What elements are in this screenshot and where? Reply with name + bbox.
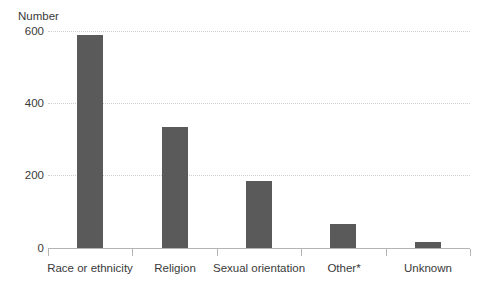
y-tick-label-600: 600 xyxy=(4,25,44,37)
x-axis-tick-5 xyxy=(470,249,471,256)
clipped-chart-title xyxy=(0,0,494,6)
bar-sexual-orientation[interactable] xyxy=(246,181,272,248)
bar-race-or-ethnicity[interactable] xyxy=(77,35,103,248)
x-tick-label-other: Other* xyxy=(327,261,360,275)
x-axis-tick-2 xyxy=(217,249,218,256)
y-tick-label-0: 0 xyxy=(4,242,44,254)
bars-layer xyxy=(48,20,470,248)
x-tick-label-sexual-orientation: Sexual orientation xyxy=(213,261,305,275)
y-tick-label-400: 400 xyxy=(4,97,44,109)
x-axis-tick-4 xyxy=(386,249,387,256)
x-axis-tick-3 xyxy=(301,249,302,256)
x-axis-tick-1 xyxy=(132,249,133,256)
bar-chart: Number 600 400 200 0 Race or ethnicity R… xyxy=(0,0,494,291)
x-axis-tick-0 xyxy=(48,249,49,256)
bar-religion[interactable] xyxy=(162,127,188,248)
y-axis-ticks: 600 400 200 0 xyxy=(0,0,44,291)
x-tick-label-unknown: Unknown xyxy=(404,261,452,275)
x-tick-label-religion: Religion xyxy=(154,261,196,275)
y-tick-label-200: 200 xyxy=(4,169,44,181)
bar-other[interactable] xyxy=(330,224,356,248)
x-axis-line xyxy=(48,248,470,249)
x-tick-label-race-or-ethnicity: Race or ethnicity xyxy=(47,261,133,275)
